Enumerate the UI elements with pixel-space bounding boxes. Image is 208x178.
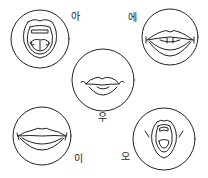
label-i: 이 — [74, 154, 83, 164]
mouth-a-figure — [11, 10, 69, 68]
mouth-o-figure — [133, 108, 195, 170]
label-o: 오 — [121, 152, 130, 162]
mouth-a-circle — [11, 10, 69, 68]
label-u: 우 — [98, 113, 107, 123]
mouth-i-figure — [13, 107, 71, 165]
mouth-shapes-diagram — [0, 0, 208, 178]
mouth-u-figure — [72, 49, 134, 111]
mouth-u-circle — [72, 49, 134, 111]
mouth-e-figure — [142, 9, 198, 65]
label-e: 에 — [128, 13, 137, 23]
label-a: 아 — [71, 12, 80, 22]
